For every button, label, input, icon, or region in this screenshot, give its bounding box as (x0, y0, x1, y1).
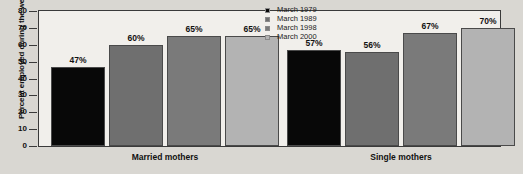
y-axis-tick-mark (29, 146, 37, 147)
y-axis-tick-label: 10 (3, 124, 27, 133)
legend-swatch-icon (265, 17, 270, 22)
bar-value-label: 56% (363, 40, 380, 50)
y-axis-tick-mark (29, 28, 37, 29)
bar-value-label: 47% (69, 55, 86, 65)
legend-item-label: March 1998 (277, 24, 317, 32)
bar-group-item: 47% (51, 53, 105, 146)
legend-item: March 1998 (265, 24, 317, 32)
y-axis-tick-mark (29, 62, 37, 63)
bar (167, 36, 221, 146)
bar (287, 50, 341, 146)
bar-group-item: 70% (461, 14, 515, 146)
bar-value-label: 67% (421, 21, 438, 31)
y-axis-tick-label: 70 (3, 23, 27, 32)
y-axis-tick-label: 30 (3, 90, 27, 99)
y-axis-tick-mark (29, 79, 37, 80)
bar-group-item: 67% (403, 19, 457, 146)
legend-item-label: March 1989 (277, 15, 317, 23)
y-axis-tick-mark (29, 45, 37, 46)
y-axis-tick-mark (29, 95, 37, 96)
y-axis-tick-label: 40 (3, 74, 27, 83)
bar (225, 36, 279, 146)
bar-group-item: 65% (167, 22, 221, 146)
y-axis-tick-label: 50 (3, 57, 27, 66)
bar-group-item: 60% (109, 31, 163, 146)
x-axis-group-label: Single mothers (370, 152, 431, 162)
bar (51, 67, 105, 146)
y-axis-tick-label: 20 (3, 107, 27, 116)
y-axis-tick-label: 80 (3, 6, 27, 15)
y-axis-tick-label: 60 (3, 40, 27, 49)
bar-value-label: 60% (127, 33, 144, 43)
bar-value-label: 70% (479, 16, 496, 26)
legend-swatch-icon (265, 8, 270, 13)
bar-chart: Percent employed during the week 8070605… (0, 0, 523, 174)
legend-item: March 2000 (265, 33, 317, 41)
y-axis-tick-mark (29, 112, 37, 113)
legend-item: March 1989 (265, 15, 317, 23)
bar-group-item: 57% (287, 36, 341, 146)
legend-item-label: March 1979 (277, 6, 317, 14)
legend-swatch-icon (265, 35, 270, 40)
bar-value-label: 65% (185, 24, 202, 34)
y-axis-tick-label: 0 (3, 141, 27, 150)
y-axis-tick-mark (29, 129, 37, 130)
bar (461, 28, 515, 146)
bar-value-label: 65% (243, 24, 260, 34)
bar (109, 45, 163, 146)
x-axis-group-label: Married mothers (132, 152, 199, 162)
bar (345, 52, 399, 147)
legend-item-label: March 2000 (277, 33, 317, 41)
bar-group-item: 56% (345, 38, 399, 147)
legend: March 1979March 1989March 1998March 2000 (265, 6, 317, 42)
legend-item: March 1979 (265, 6, 317, 14)
legend-swatch-icon (265, 26, 270, 31)
y-axis-tick-mark (29, 11, 37, 12)
bar (403, 33, 457, 146)
